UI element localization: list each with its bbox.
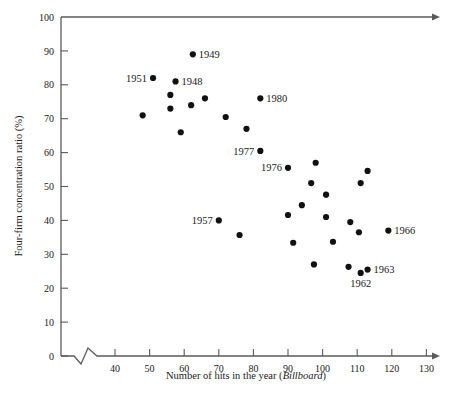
data-point: [330, 239, 336, 245]
axis-titles: Four-firm concentration ratio (%)Number …: [13, 115, 327, 382]
x-tick-label: 110: [350, 363, 365, 374]
data-point: [223, 114, 229, 120]
data-point: [243, 126, 249, 132]
x-tick-label: 50: [145, 363, 155, 374]
data-point: [308, 180, 314, 186]
scatter-plot-figure: 405060708090100110120130 010203040506070…: [0, 0, 451, 399]
data-point: [257, 148, 263, 154]
data-point-label: 1948: [182, 76, 203, 87]
data-point: [285, 165, 291, 171]
data-point: [358, 270, 364, 276]
data-point: [285, 212, 291, 218]
data-point: [216, 217, 222, 223]
data-point: [364, 168, 370, 174]
y-tick-label: 0: [49, 351, 54, 362]
y-tick-label: 30: [44, 249, 54, 260]
data-point: [236, 232, 242, 238]
data-point-label: 1976: [261, 162, 282, 173]
x-axis-title-emphasis: Billboard: [283, 370, 324, 381]
data-point: [345, 264, 351, 270]
x-axis-arrowhead: [432, 353, 440, 360]
data-point: [150, 75, 156, 81]
data-point: [257, 95, 263, 101]
chart-canvas: 405060708090100110120130 010203040506070…: [0, 0, 451, 399]
y-axis-title: Four-firm concentration ratio (%): [13, 115, 25, 257]
data-point: [172, 78, 178, 84]
y-tick-label: 40: [44, 215, 54, 226]
data-point: [299, 202, 305, 208]
x-axis-title-tail: ): [323, 370, 327, 382]
data-point: [190, 51, 196, 57]
data-point: [347, 219, 353, 225]
y-tick-label: 10: [44, 317, 54, 328]
data-point-label: 1951: [126, 73, 147, 84]
data-point: [358, 180, 364, 186]
axes: [61, 14, 440, 364]
y-axis-tick-labels: 0102030405060708090100: [39, 12, 54, 362]
y-tick-label: 70: [44, 113, 54, 124]
data-point: [311, 261, 317, 267]
data-point: [188, 102, 194, 108]
y-tick-label: 50: [44, 181, 54, 192]
data-point-labels: 1951194819491957197719801976196219631966: [126, 49, 415, 289]
data-point: [356, 229, 362, 235]
data-point-label: 1980: [266, 93, 287, 104]
x-axis-title: Number of hits in the year (Billboard): [166, 370, 327, 382]
data-point: [202, 95, 208, 101]
data-point-label: 1966: [394, 225, 415, 236]
data-point: [385, 227, 391, 233]
x-tick-label: 120: [384, 363, 399, 374]
x-tick-label: 130: [419, 363, 434, 374]
x-axis-line-with-break: [61, 348, 432, 364]
y-tick-label: 100: [39, 12, 54, 23]
y-tick-label: 80: [44, 79, 54, 90]
y-tick-label: 20: [44, 283, 54, 294]
data-point: [364, 266, 370, 272]
data-point: [167, 105, 173, 111]
data-point: [178, 129, 184, 135]
data-point: [290, 240, 296, 246]
data-point-label: 1963: [374, 264, 395, 275]
data-point: [313, 160, 319, 166]
y-tick-label: 90: [44, 46, 54, 57]
data-point-label: 1949: [199, 49, 220, 60]
data-point-label: 1977: [233, 146, 254, 157]
data-point: [140, 112, 146, 118]
data-point-label: 1957: [192, 215, 213, 226]
x-axis-title-plain: Number of hits in the year (: [166, 370, 283, 382]
tick-marks: [61, 51, 426, 356]
top-rule-arrowhead: [432, 14, 440, 21]
data-point: [323, 192, 329, 198]
y-tick-label: 60: [44, 147, 54, 158]
data-point: [167, 92, 173, 98]
data-point: [323, 214, 329, 220]
x-tick-label: 40: [110, 363, 120, 374]
data-point-label: 1962: [350, 278, 371, 289]
